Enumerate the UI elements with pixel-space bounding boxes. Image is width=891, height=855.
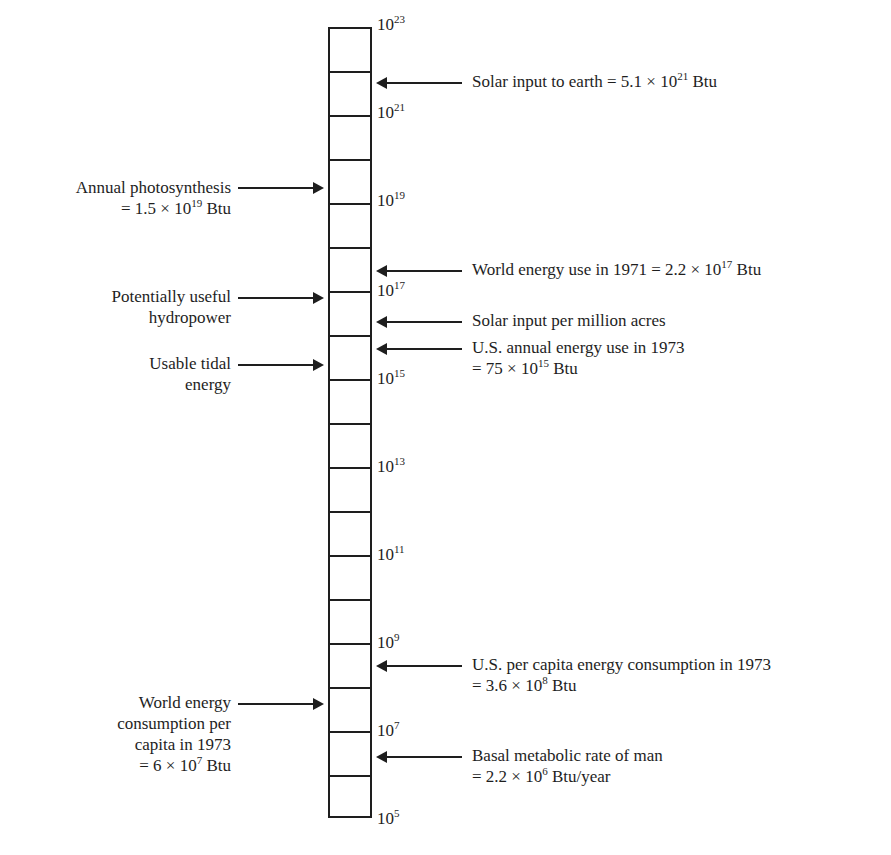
scale-divider (330, 115, 370, 117)
annotation-annual-photosynthesis: Annual photosynthesis = 1.5 × 1019 Btu (76, 177, 231, 219)
arrow-right-icon (238, 703, 322, 705)
scale-divider (330, 687, 370, 689)
tick-label-1e9: 109 (377, 634, 400, 651)
annotation-solar-input-earth: Solar input to earth = 5.1 × 1021 Btu (472, 71, 717, 92)
log-scale-column (328, 27, 372, 818)
arrow-right-icon (238, 297, 322, 299)
arrow-left-icon (378, 270, 462, 272)
annotation-us-per-capita-1973: U.S. per capita energy consumption in 19… (472, 654, 771, 696)
scale-divider (330, 159, 370, 161)
tick-label-1e23: 1023 (377, 16, 405, 33)
arrow-right-icon (238, 187, 322, 189)
arrow-right-icon (238, 364, 322, 366)
scale-divider (330, 731, 370, 733)
scale-divider (330, 555, 370, 557)
annotation-world-energy-1971: World energy use in 1971 = 2.2 × 1017 Bt… (472, 259, 761, 280)
scale-divider (330, 423, 370, 425)
arrow-left-icon (378, 82, 462, 84)
annotation-tidal-energy: Usable tidal energy (149, 353, 231, 395)
scale-divider (330, 291, 370, 293)
scale-divider (330, 203, 370, 205)
arrow-left-icon (378, 665, 462, 667)
arrow-left-icon (378, 756, 462, 758)
tick-label-1e7: 107 (377, 722, 400, 739)
tick-label-1e21: 1021 (377, 104, 405, 121)
tick-label-1e5: 105 (377, 810, 400, 827)
arrow-left-icon (378, 321, 462, 323)
tick-label-1e19: 1019 (377, 192, 405, 209)
annotation-hydropower: Potentially useful hydropower (112, 286, 231, 328)
tick-label-1e17: 1017 (377, 282, 405, 299)
scale-divider (330, 335, 370, 337)
scale-divider (330, 599, 370, 601)
scale-divider (330, 379, 370, 381)
scale-divider (330, 467, 370, 469)
scale-divider (330, 775, 370, 777)
annotation-solar-input-million-acres: Solar input per million acres (472, 310, 666, 331)
tick-label-1e11: 1011 (377, 546, 405, 563)
tick-label-1e15: 1015 (377, 370, 405, 387)
tick-label-1e13: 1013 (377, 458, 405, 475)
scale-divider (330, 247, 370, 249)
annotation-basal-metabolic-rate: Basal metabolic rate of man = 2.2 × 106 … (472, 745, 663, 787)
scale-divider (330, 511, 370, 513)
annotation-world-per-capita-1973: World energy consumption per capita in 1… (117, 692, 231, 776)
arrow-left-icon (378, 348, 462, 350)
scale-divider (330, 643, 370, 645)
scale-divider (330, 71, 370, 73)
annotation-us-annual-energy-1973: U.S. annual energy use in 1973 = 75 × 10… (472, 337, 685, 379)
